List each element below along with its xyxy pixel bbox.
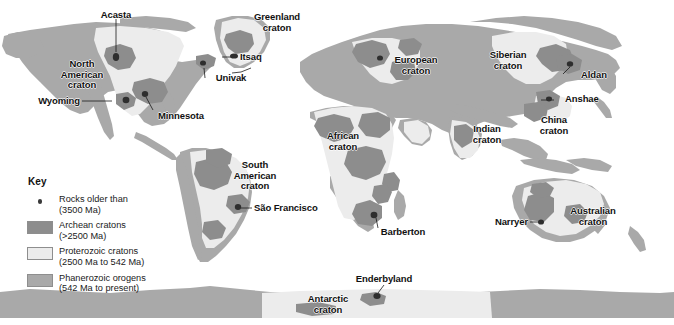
label-greenland-craton: Greenland craton — [254, 12, 300, 33]
label-antarctic-craton: Antarctic craton — [308, 294, 348, 315]
legend-mark-container — [26, 220, 54, 234]
legend-mark-container — [26, 273, 54, 287]
label-anshae: Anshae — [565, 94, 599, 105]
label-acasta: Acasta — [101, 10, 132, 21]
label-enderbyland: Enderbyland — [356, 274, 412, 285]
label-narryer: Narryer — [495, 217, 528, 228]
legend-item-phanerozoic-orogens: Phanerozoic orogens (542 Ma to present) — [26, 273, 176, 294]
archean-swatch-icon — [27, 221, 53, 234]
legend-item-archean-cratons: Archean cratons (>2500 Ma) — [26, 220, 176, 241]
geological-world-map-figure: Acasta North American craton Wyoming Min… — [0, 0, 674, 325]
legend-label-archean-cratons: Archean cratons (>2500 Ma) — [54, 220, 126, 241]
legend-label-rocks-older-than: Rocks older than (3500 Ma) — [54, 194, 128, 215]
phanerozoic-swatch-icon — [27, 274, 53, 287]
label-australian-craton: Australian craton — [570, 206, 615, 227]
legend-title: Key — [28, 176, 176, 187]
label-univak: Univak — [216, 73, 247, 84]
legend-item-proterozoic-cratons: Proterozoic cratons (2500 Ma to 542 Ma) — [26, 246, 176, 267]
label-barberton: Barberton — [381, 227, 426, 238]
label-sao-francisco: São Francisco — [254, 203, 318, 214]
proterozoic-swatch-icon — [27, 247, 53, 260]
legend-item-rocks-older-than: Rocks older than (3500 Ma) — [26, 194, 176, 215]
legend-label-phanerozoic-orogens: Phanerozoic orogens (542 Ma to present) — [54, 273, 146, 294]
legend-mark-container — [26, 194, 54, 204]
label-china-craton: China craton — [540, 115, 568, 136]
label-african-craton: African craton — [327, 131, 359, 152]
label-north-american-craton: North American craton — [61, 59, 104, 91]
label-south-american-craton: South American craton — [234, 160, 277, 192]
label-siberian-craton: Siberian craton — [490, 50, 527, 71]
legend-label-proterozoic-cratons: Proterozoic cratons (2500 Ma to 542 Ma) — [54, 246, 144, 267]
map-legend: Key Rocks older than (3500 Ma) Archean c… — [26, 176, 176, 299]
label-european-craton: European craton — [394, 55, 437, 76]
label-aldan: Aldan — [581, 70, 607, 81]
label-wyoming: Wyoming — [38, 96, 80, 107]
legend-mark-container — [26, 246, 54, 260]
label-indian-craton: Indian craton — [473, 124, 501, 145]
label-minnesota: Minnesota — [158, 111, 204, 122]
ancient-rock-dot-icon — [38, 199, 43, 204]
label-itsaq: Itsaq — [240, 52, 262, 63]
